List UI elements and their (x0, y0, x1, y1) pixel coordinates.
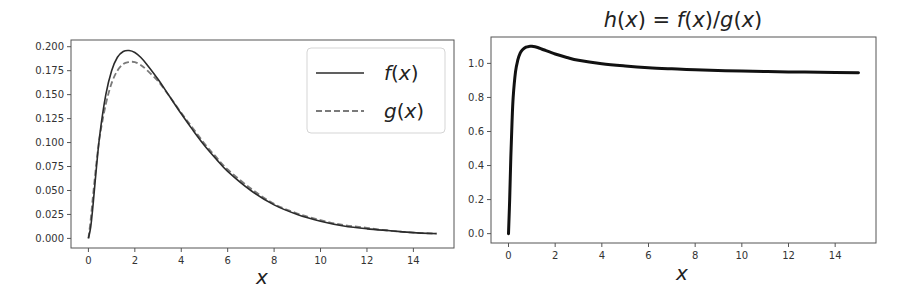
x-tick-label: 14 (407, 255, 420, 266)
x-tick-label: 0 (505, 250, 511, 261)
x-tick-label: 12 (361, 255, 374, 266)
left-x-axis-label: x (255, 265, 268, 289)
right-plot: h(x) = f(x)/g(x) 0.00.20.40.60.81.0 0246… (468, 8, 876, 285)
y-tick-label: 0.200 (35, 41, 64, 52)
x-tick-label: 4 (599, 250, 605, 261)
figure: 0.0000.0250.0500.0750.1000.1250.1500.175… (0, 0, 904, 297)
y-tick-label: 0.6 (468, 126, 484, 137)
x-tick-label: 6 (645, 250, 651, 261)
x-tick-label: 6 (224, 255, 230, 266)
y-tick-label: 0.000 (35, 233, 64, 244)
left-y-ticks: 0.0000.0250.0500.0750.1000.1250.1500.175… (35, 41, 71, 244)
left-x-ticks: 02468101214 (85, 248, 420, 266)
legend-f-label: f(x) (384, 61, 419, 85)
y-tick-label: 1.0 (468, 58, 484, 69)
y-tick-label: 0.150 (35, 89, 64, 100)
y-tick-label: 0.0 (468, 228, 484, 239)
y-tick-label: 0.2 (468, 194, 484, 205)
legend-box (307, 48, 445, 133)
y-tick-label: 0.4 (468, 160, 484, 171)
right-axes-frame (491, 37, 876, 243)
x-tick-label: 4 (178, 255, 184, 266)
x-tick-label: 10 (735, 250, 748, 261)
x-tick-label: 10 (314, 255, 327, 266)
x-tick-label: 14 (829, 250, 842, 261)
y-tick-label: 0.100 (35, 137, 64, 148)
left-plot: 0.0000.0250.0500.0750.1000.1250.1500.175… (35, 40, 454, 289)
right-y-ticks: 0.00.20.40.60.81.0 (468, 58, 491, 239)
right-plot-title: h(x) = f(x)/g(x) (604, 8, 763, 32)
x-tick-label: 12 (782, 250, 795, 261)
y-tick-label: 0.050 (35, 185, 64, 196)
x-tick-label: 8 (692, 250, 698, 261)
y-tick-label: 0.075 (35, 161, 64, 172)
y-tick-label: 0.175 (35, 65, 64, 76)
x-tick-label: 8 (271, 255, 277, 266)
x-tick-label: 2 (552, 250, 558, 261)
y-tick-label: 0.025 (35, 209, 64, 220)
x-tick-label: 0 (85, 255, 91, 266)
figure-canvas: 0.0000.0250.0500.0750.1000.1250.1500.175… (0, 0, 904, 297)
right-x-ticks: 02468101214 (505, 243, 841, 261)
y-tick-label: 0.125 (35, 113, 64, 124)
y-tick-label: 0.8 (468, 92, 484, 103)
legend-g-label: g(x) (384, 99, 424, 123)
x-tick-label: 2 (132, 255, 138, 266)
right-x-axis-label: x (675, 261, 688, 285)
legend: f(x) g(x) (307, 48, 445, 133)
